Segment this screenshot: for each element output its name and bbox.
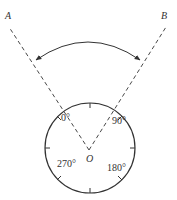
dial-label-90: 90° [112,115,126,126]
point-A-label: A [4,10,12,21]
ray-OB [89,27,166,150]
point-B-label: B [161,10,167,21]
dial-label-180: 180° [107,162,126,173]
dial-label-270: 270° [57,158,76,169]
ray-OA [9,27,89,150]
angle-diagram: A B O 0° 90° 180° 270° [0,0,177,200]
point-O-label: O [86,153,93,164]
dial-label-0: 0° [61,112,70,123]
angle-arc-arrow [36,42,140,60]
